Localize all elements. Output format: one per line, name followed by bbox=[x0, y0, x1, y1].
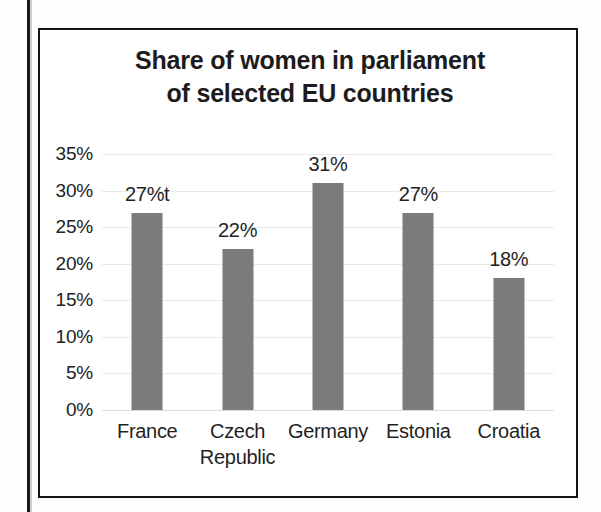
bar-slot: 27%t bbox=[102, 154, 192, 410]
chart-frame: Share of women in parliament of selected… bbox=[38, 28, 578, 498]
category-label-france: France bbox=[102, 418, 192, 444]
bar-slot: 31% bbox=[283, 154, 373, 410]
bar-slot: 27% bbox=[373, 154, 463, 410]
category-label-text: France bbox=[102, 418, 192, 444]
y-axis-tick-label: 0% bbox=[66, 399, 93, 421]
bar-estonia[interactable] bbox=[403, 213, 434, 410]
scanned-page: Share of women in parliament of selected… bbox=[0, 0, 601, 512]
category-label-line: Czech bbox=[192, 418, 282, 444]
category-label-czech-republic: CzechRepublic bbox=[192, 418, 282, 470]
y-axis-tick-label: 35% bbox=[56, 143, 93, 165]
category-label-text: Germany bbox=[283, 418, 373, 444]
category-label-line: Germany bbox=[283, 418, 373, 444]
category-label-germany: Germany bbox=[283, 418, 373, 444]
page-spine-rule bbox=[27, 0, 30, 512]
bar-slot: 22% bbox=[192, 154, 282, 410]
category-label-line: Estonia bbox=[373, 418, 463, 444]
y-axis-tick-label: 5% bbox=[66, 362, 93, 384]
y-axis-tick-label: 30% bbox=[56, 180, 93, 202]
gridline-0% bbox=[102, 410, 554, 411]
y-axis-tick-label: 25% bbox=[56, 216, 93, 238]
bar-value-label: 27% bbox=[399, 183, 438, 206]
chart-title-line-1: Share of women in parliament bbox=[40, 44, 580, 77]
bar-slot: 18% bbox=[464, 154, 554, 410]
category-label-text: CzechRepublic bbox=[192, 418, 282, 470]
category-label-line: Croatia bbox=[464, 418, 554, 444]
bar-croatia[interactable] bbox=[493, 278, 524, 410]
category-label-text: Estonia bbox=[373, 418, 463, 444]
category-label-line: France bbox=[102, 418, 192, 444]
category-label-estonia: Estonia bbox=[373, 418, 463, 444]
bar-czech-republic[interactable] bbox=[222, 249, 253, 410]
y-axis-tick-label: 15% bbox=[56, 289, 93, 311]
y-axis-tick-label: 20% bbox=[56, 253, 93, 275]
bar-value-label: 18% bbox=[489, 248, 528, 271]
category-label-line: Republic bbox=[192, 444, 282, 470]
bar-value-label: 22% bbox=[218, 219, 257, 242]
category-axis: FranceCzechRepublicGermanyEstoniaCroatia bbox=[102, 418, 554, 492]
plot-area: 0%5%10%15%20%25%30%35%27%t22%31%27%18% bbox=[102, 154, 554, 410]
chart-title-line-2: of selected EU countries bbox=[40, 77, 580, 110]
bar-value-label: 27%t bbox=[125, 183, 169, 206]
bar-germany[interactable] bbox=[312, 183, 343, 410]
category-label-text: Croatia bbox=[464, 418, 554, 444]
bar-france[interactable] bbox=[132, 213, 163, 410]
bar-value-label: 31% bbox=[308, 153, 347, 176]
chart-title: Share of women in parliament of selected… bbox=[40, 44, 580, 110]
category-label-croatia: Croatia bbox=[464, 418, 554, 444]
y-axis-tick-label: 10% bbox=[56, 326, 93, 348]
